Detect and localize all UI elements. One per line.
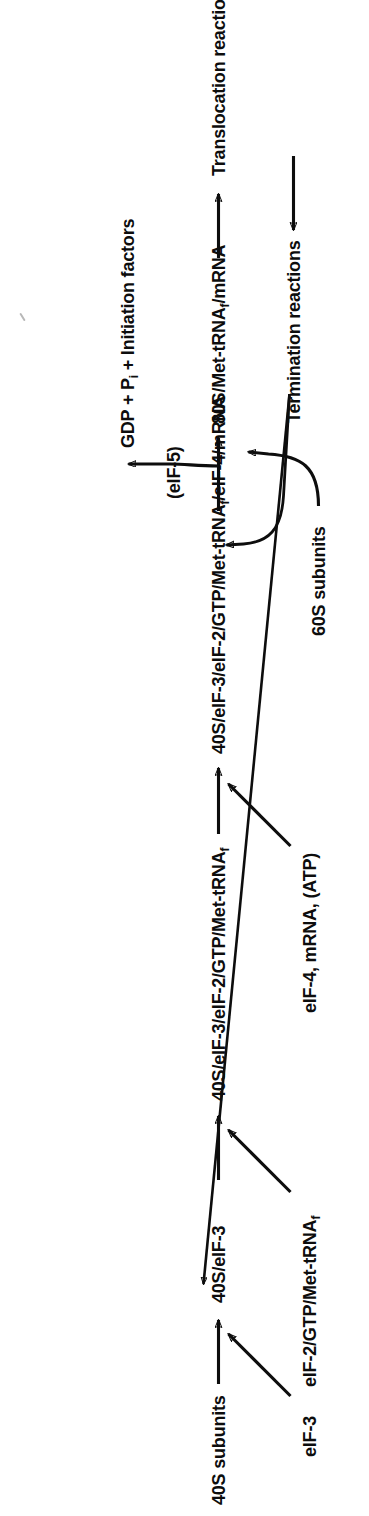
edge-termination-recycle-to-60s [226, 394, 289, 545]
pathway-diagram: 40S subunits eIF-3 40S/eIF-3 eIF-2/GTP/M… [0, 0, 369, 1516]
node-ternary-complex: 40S/eIF-3/eIF-2/GTP/Met-tRNAf [209, 848, 227, 1101]
node-eif2-gtp-met-trna-input: eIF-2/GTP/Met-tRNAf [300, 1216, 318, 1387]
node-eif5-label: (eIF-5) [164, 446, 182, 499]
node-eif4-mrna-atp-input: eIF-4, mRNA, (ATP) [300, 853, 318, 1013]
node-full-initiation-complex: 40S/eIF-3/eIF-2/GTP/Met-tRNAf/eIF-4/mRNA [209, 396, 227, 754]
node-translocation-reactions: Translocation reactions [209, 0, 227, 176]
node-termination-reactions: Termination reactions [284, 240, 302, 423]
node-40s-eif3: 40S/eIF-3 [209, 1226, 227, 1303]
node-60s-subunits: 60S subunits [309, 526, 327, 636]
node-gdp-products: GDP + Pi + Initiation factors [118, 219, 136, 448]
node-eif3-input: eIF-3 [300, 1416, 318, 1457]
node-80s-complex: 80S/Met-tRNAf/mRNA [209, 245, 227, 424]
node-40s-subunits: 40S subunits [209, 1395, 227, 1505]
edge-eif4-input [228, 784, 290, 846]
edge-eif2-input [228, 1130, 290, 1192]
edge-eif3-input [228, 1334, 290, 1396]
figure-canvas: 40S subunits eIF-3 40S/eIF-3 eIF-2/GTP/M… [0, 0, 369, 1516]
